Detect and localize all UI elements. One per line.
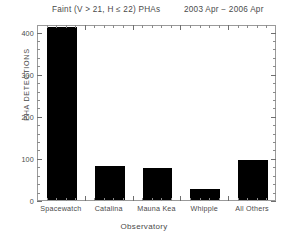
y-major-tick [271,75,276,76]
x-minor-tick [123,198,124,201]
y-major-tick [37,75,42,76]
x-axis-label: Observatory [0,222,288,231]
y-minor-tick [37,92,40,93]
x-minor-tick [142,198,143,201]
x-tick-label-spacewatch: Spacewatch [37,204,85,213]
y-minor-tick [37,58,40,59]
y-tick-label: 200 [21,113,34,122]
y-minor-tick [37,193,40,194]
y-minor-tick [37,66,40,67]
x-minor-tick [56,198,57,201]
y-minor-tick [273,108,276,109]
x-minor-tick [123,25,124,28]
x-minor-tick [47,198,48,201]
bar-catalina [95,166,125,200]
y-minor-tick [273,58,276,59]
y-major-tick [37,201,42,202]
y-tick-label: 300 [21,71,34,80]
x-tick-label-whipple: Whipple [180,204,228,213]
y-minor-tick [37,134,40,135]
y-minor-tick [273,92,276,93]
x-minor-tick [219,198,220,201]
x-minor-tick [66,25,67,28]
y-minor-tick [37,150,40,151]
y-minor-tick [37,125,40,126]
x-tick-label-all-others: All Others [228,204,276,213]
x-minor-tick [266,198,267,201]
x-minor-tick [152,25,153,28]
x-minor-tick [171,198,172,201]
y-minor-tick [37,176,40,177]
x-minor-tick [209,198,210,201]
plot-area [38,26,275,200]
x-minor-tick [247,198,248,201]
x-minor-tick [257,25,258,28]
bar-whipple [190,189,220,200]
chart-figure: Faint (V > 21, H ≤ 22) PHAs 2003 Apr − 2… [0,0,288,241]
x-minor-tick [66,198,67,201]
y-major-tick [37,117,42,118]
y-tick-label: 100 [21,155,34,164]
x-minor-tick [257,198,258,201]
y-minor-tick [37,100,40,101]
y-minor-tick [273,41,276,42]
x-minor-tick [161,25,162,28]
bar-all-others [238,160,268,200]
y-minor-tick [37,108,40,109]
y-minor-tick [273,100,276,101]
x-minor-tick [161,198,162,201]
x-major-tick [180,196,181,201]
y-tick-label: 0 [30,197,34,206]
x-minor-tick [94,25,95,28]
y-major-tick [37,159,42,160]
x-minor-tick [190,25,191,28]
x-minor-tick [113,198,114,201]
y-minor-tick [37,142,40,143]
x-minor-tick [47,25,48,28]
x-minor-tick [238,198,239,201]
x-major-tick [133,25,134,30]
x-minor-tick [113,25,114,28]
y-major-tick [37,33,42,34]
y-major-tick [271,117,276,118]
x-major-tick [228,25,229,30]
x-minor-tick [104,198,105,201]
y-minor-tick [273,193,276,194]
y-minor-tick [37,184,40,185]
chart-title: Faint (V > 21, H ≤ 22) PHAs [52,5,160,14]
x-minor-tick [56,25,57,28]
x-minor-tick [200,25,201,28]
y-major-tick [271,201,276,202]
x-major-tick [133,196,134,201]
x-tick-label-catalina: Catalina [85,204,133,213]
x-minor-tick [142,25,143,28]
x-minor-tick [266,25,267,28]
x-minor-tick [75,198,76,201]
x-minor-tick [104,25,105,28]
x-minor-tick [190,198,191,201]
bar-mauna-kea [143,168,173,200]
y-minor-tick [273,167,276,168]
x-major-tick [228,196,229,201]
y-minor-tick [37,83,40,84]
y-minor-tick [273,150,276,151]
y-minor-tick [273,176,276,177]
y-minor-tick [37,167,40,168]
y-minor-tick [37,41,40,42]
x-major-tick [85,25,86,30]
x-minor-tick [94,198,95,201]
y-minor-tick [273,49,276,50]
y-minor-tick [273,134,276,135]
x-minor-tick [247,25,248,28]
y-minor-tick [37,49,40,50]
bar-spacewatch [47,27,77,200]
chart-date-range: 2003 Apr − 2006 Apr [184,5,264,14]
x-minor-tick [219,25,220,28]
y-tick-label: 400 [21,29,34,38]
y-minor-tick [273,66,276,67]
x-tick-label-mauna-kea: Mauna Kea [133,204,181,213]
x-minor-tick [171,25,172,28]
x-major-tick [85,196,86,201]
y-minor-tick [273,83,276,84]
x-minor-tick [152,198,153,201]
